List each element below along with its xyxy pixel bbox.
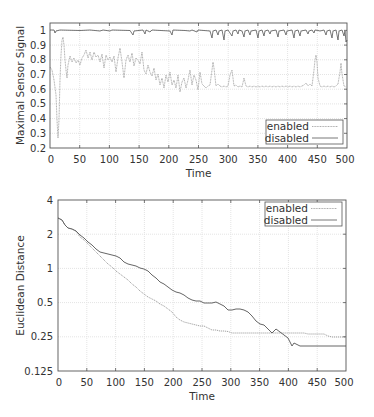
ytick: 0.2 <box>30 143 46 154</box>
xtick: 300 <box>221 377 240 388</box>
xtick: 350 <box>250 377 269 388</box>
xtick: 150 <box>130 154 149 165</box>
bottom-xlabel: Time <box>188 390 215 402</box>
top-ylabel: Maximal Sensor Signal <box>14 26 26 145</box>
xtick: 250 <box>189 154 208 165</box>
ytick: 0.9 <box>30 40 46 51</box>
bottom-ylabel: Euclidean Distance <box>14 235 26 335</box>
bottom-series-enabled <box>58 218 346 337</box>
xtick: 450 <box>308 377 327 388</box>
legend-label-disabled: disabled <box>264 214 308 226</box>
ytick: 1 <box>47 263 53 274</box>
xtick: 350 <box>248 154 267 165</box>
legend-label-enabled: enabled <box>267 120 309 132</box>
xtick: 300 <box>219 154 238 165</box>
ytick: 0.3 <box>30 128 46 139</box>
bottom-legend: enabled disabled <box>264 202 342 226</box>
ytick: 0.6 <box>30 84 46 95</box>
ytick: 4 <box>47 195 53 206</box>
legend-label-enabled: enabled <box>266 202 308 214</box>
xtick: 100 <box>100 154 119 165</box>
xtick: 200 <box>164 377 183 388</box>
ytick: 0.8 <box>30 54 46 65</box>
legend-label-disabled: disabled <box>265 132 309 144</box>
xtick: 400 <box>278 154 297 165</box>
bottom-xticks: 0 50 100 150 200 250 300 350 400 450 500 <box>56 377 354 388</box>
top-xticks: 0 50 100 150 200 250 300 350 400 450 500 <box>48 154 355 165</box>
bottom-chart: 0.125 0.25 0.5 1 2 4 0 50 100 150 200 25… <box>14 195 354 403</box>
ytick: 0.125 <box>24 366 53 377</box>
xtick: 150 <box>135 377 154 388</box>
ytick: 1 <box>40 25 46 36</box>
top-yticks: 0.2 0.3 0.4 0.5 0.6 0.7 0.8 0.9 1 <box>30 25 46 154</box>
xtick: 500 <box>335 154 354 165</box>
xtick: 50 <box>73 154 86 165</box>
xtick: 0 <box>56 377 62 388</box>
xtick: 250 <box>192 377 211 388</box>
ytick: 0.25 <box>31 331 53 342</box>
bottom-yticks: 0.125 0.25 0.5 1 2 4 <box>24 195 53 377</box>
xtick: 500 <box>334 377 353 388</box>
xtick: 100 <box>106 377 125 388</box>
xtick: 450 <box>308 154 327 165</box>
figure: 0.2 0.3 0.4 0.5 0.6 0.7 0.8 0.9 1 0 50 1… <box>0 0 374 417</box>
ytick: 2 <box>47 229 53 240</box>
xtick: 50 <box>80 377 93 388</box>
ytick: 0.4 <box>30 113 46 124</box>
xtick: 0 <box>48 154 54 165</box>
top-legend: enabled disabled <box>265 120 343 144</box>
ytick: 0.5 <box>37 297 53 308</box>
top-xlabel: Time <box>185 167 212 179</box>
ytick: 0.7 <box>30 69 46 80</box>
xtick: 200 <box>159 154 178 165</box>
xtick: 400 <box>279 377 298 388</box>
ytick: 0.5 <box>30 98 46 109</box>
top-chart: 0.2 0.3 0.4 0.5 0.6 0.7 0.8 0.9 1 0 50 1… <box>14 23 355 179</box>
